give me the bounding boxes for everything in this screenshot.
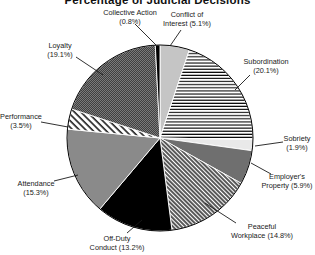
slice-label-employers-property: Employer'sProperty (5.9%) <box>261 172 312 190</box>
leader-line-performance <box>41 122 68 127</box>
leader-line-loyalty <box>76 57 103 75</box>
pie-chart <box>0 0 315 255</box>
slice-label-attendance: Attendance(15.3%) <box>18 179 55 197</box>
slice-label-collective-action: Collective Action(0.8%) <box>103 8 157 26</box>
leader-line-subordination <box>235 75 250 90</box>
chart-canvas: Percentage of Judicial Decisions <box>0 0 315 255</box>
slice-label-off-duty-conduct: Off-DutyConduct (13.2%) <box>90 234 145 252</box>
slice-label-loyalty: Loyalty(19.1%) <box>47 41 73 59</box>
slice-label-sobriety: Sobriety(1.9%) <box>284 134 311 152</box>
leader-line-conflict-of-interest <box>170 30 181 46</box>
slice-label-subordination: Subordination(20.1%) <box>243 57 288 75</box>
slice-label-conflict-of-interest: Conflict ofInterest (5.1%) <box>163 10 211 28</box>
slice-label-performance: Performance(3.5%) <box>0 112 42 130</box>
slice-label-peaceful-workplace: PeacefulWorkplace (14.8%) <box>231 222 293 240</box>
pie-slices-group <box>67 45 253 231</box>
leader-line-sobriety <box>255 142 283 146</box>
leader-line-collective-action <box>135 24 156 45</box>
leader-line-attendance <box>54 175 78 181</box>
